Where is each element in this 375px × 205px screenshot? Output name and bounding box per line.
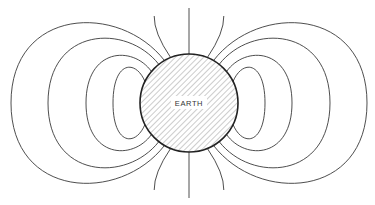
earth-label: EARTH [175,99,203,108]
magnetic-field-diagram: EARTH [0,0,375,205]
